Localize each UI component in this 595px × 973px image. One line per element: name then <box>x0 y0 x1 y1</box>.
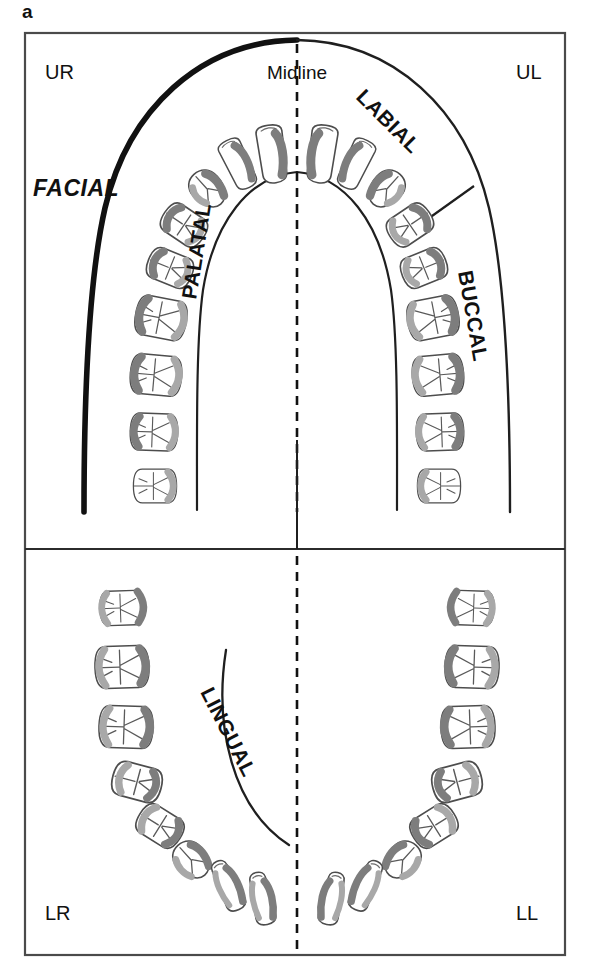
label-facial: FACIAL <box>33 175 119 201</box>
lower-arch-group: LR LL LINGUAL <box>45 556 538 950</box>
label-lingual: LINGUAL <box>196 683 260 780</box>
label-upper-right: UR <box>45 61 74 83</box>
upper-right-teeth <box>129 123 289 502</box>
label-upper-left: UL <box>516 61 542 83</box>
palatal-arc-right <box>297 172 397 510</box>
label-lower-right: LR <box>45 902 71 924</box>
figure-root: a <box>0 0 595 973</box>
label-lower-left: LL <box>516 902 538 924</box>
upper-arch-group: UR UL Midline FACIAL LABIAL BUCCAL PALAT… <box>33 40 542 549</box>
label-midline: Midline <box>267 62 327 83</box>
upper-left-teeth <box>305 123 465 502</box>
dental-arch-diagram: UR UL Midline FACIAL LABIAL BUCCAL PALAT… <box>0 0 595 973</box>
lower-left-teeth <box>317 590 500 926</box>
label-buccal: BUCCAL <box>454 269 493 363</box>
